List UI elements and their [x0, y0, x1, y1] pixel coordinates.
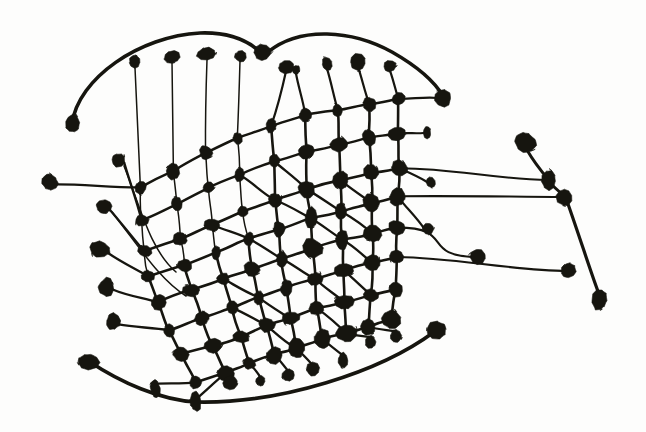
- graph-node-right-pendant: [423, 127, 430, 139]
- lattice-node: [335, 203, 346, 220]
- lattice-node: [173, 232, 187, 245]
- lattice-node: [227, 301, 238, 315]
- pendant-stalk: [155, 382, 196, 383]
- lattice-node: [390, 250, 404, 263]
- hand-drawn-network-diagram: [0, 0, 646, 432]
- lattice-node: [361, 319, 376, 335]
- lattice-node: [334, 264, 354, 277]
- right-lead-line: [398, 196, 565, 197]
- graph-node-top-pendant: [292, 66, 300, 75]
- lattice-node: [238, 206, 248, 216]
- figure-root: [0, 0, 646, 432]
- graph-node-top-pendant: [129, 55, 140, 68]
